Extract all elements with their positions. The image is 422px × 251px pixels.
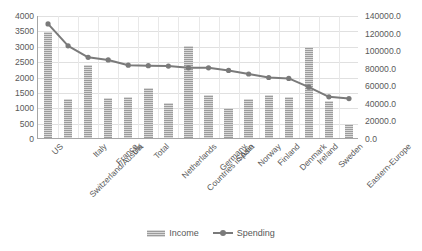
spending-point: Countries in Asia: 81000 bbox=[186, 65, 191, 70]
category-label: Eastern-Europe bbox=[365, 142, 412, 189]
spending-point: UK: 84000 bbox=[126, 63, 131, 68]
spending-point: France: 90000 bbox=[106, 57, 111, 62]
right-axis-tick: 20000.0 bbox=[365, 117, 396, 126]
legend-line-marker-icon bbox=[213, 229, 233, 237]
spending-point: Spain: 78000 bbox=[226, 68, 231, 73]
left-axis-tick: 1500 bbox=[15, 89, 34, 98]
spending-point: Ireland: 59000 bbox=[306, 85, 311, 90]
legend-item-income[interactable]: Income bbox=[147, 228, 199, 238]
left-axis-tick: 3000 bbox=[15, 42, 34, 51]
spending-line bbox=[48, 24, 349, 99]
spending-point: Finland: 70000 bbox=[266, 75, 271, 80]
spending-point: Germany: 81000 bbox=[206, 65, 211, 70]
right-axis-tick: 100000.0 bbox=[365, 47, 401, 56]
category-label: Netherlands bbox=[181, 142, 219, 180]
category-label: Sweden bbox=[337, 142, 364, 169]
income-spending-chart: 05001000150020002500300035004000 0.02000… bbox=[0, 0, 422, 251]
left-axis-tick: 3500 bbox=[15, 27, 34, 36]
spending-point: Netherlands: 83000 bbox=[166, 63, 171, 68]
spending-point: Italy: 93000 bbox=[86, 55, 91, 60]
spending-point: Eastern-Europe: 46000 bbox=[346, 96, 351, 101]
right-axis-tick: 80000.0 bbox=[365, 64, 396, 73]
legend-label: Spending bbox=[237, 228, 275, 238]
right-axis-tick: 140000.0 bbox=[365, 12, 401, 21]
right-axis-tick: 40000.0 bbox=[365, 100, 396, 109]
chart-legend: IncomeSpending bbox=[0, 228, 422, 238]
right-axis-tick: 60000.0 bbox=[365, 82, 396, 91]
spending-line-series: US: 131000Switzerland/Austria: 106000Ita… bbox=[38, 16, 359, 139]
spending-point: Norway: 74000 bbox=[246, 71, 251, 76]
left-axis-tick: 2500 bbox=[15, 58, 34, 67]
legend-bar-swatch-icon bbox=[147, 230, 165, 237]
spending-point: Total: 83500 bbox=[146, 63, 151, 68]
legend-label: Income bbox=[169, 228, 199, 238]
right-axis-tick: 120000.0 bbox=[365, 29, 401, 38]
right-axis-tick: 0.0 bbox=[365, 135, 377, 144]
spending-point: Sweden: 48000 bbox=[326, 94, 331, 99]
spending-point: Denmark: 69000 bbox=[286, 76, 291, 81]
spending-point: US: 131000 bbox=[45, 21, 50, 26]
left-axis-tick: 2000 bbox=[15, 73, 34, 82]
category-label: US bbox=[50, 142, 64, 156]
left-axis-tick: 0 bbox=[29, 135, 34, 144]
plot-area: US: 131000Switzerland/Austria: 106000Ita… bbox=[37, 16, 358, 139]
category-label: Italy bbox=[92, 142, 109, 159]
spending-point: Switzerland/Austria: 106000 bbox=[65, 43, 70, 48]
left-axis-tick: 4000 bbox=[15, 12, 34, 21]
left-axis-tick: 1000 bbox=[15, 104, 34, 113]
legend-item-spending[interactable]: Spending bbox=[213, 228, 275, 238]
left-axis-tick: 500 bbox=[20, 119, 34, 128]
category-label: Total bbox=[153, 142, 171, 160]
